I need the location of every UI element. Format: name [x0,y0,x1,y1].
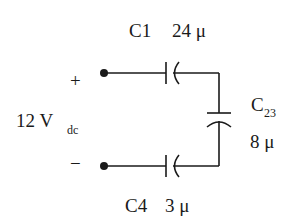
top-branch [100,62,219,84]
source-voltage-label: 12 V [16,110,53,131]
bottom-branch [100,155,219,177]
c4-name-label: C4 [125,195,148,216]
c23-value-label: 8 μ [250,131,274,152]
right-branch [207,73,231,166]
c1-name-label: C1 [129,20,151,41]
plus-sign-label: + [70,70,81,91]
circuit-diagram: C1 24 μ + 12 V dc − C 23 8 μ C4 3 μ [0,0,300,223]
c4-value-label: 3 μ [165,195,189,216]
source-voltage-subscript: dc [67,123,78,137]
c23-name-label: C [251,94,264,115]
c1-value-label: 24 μ [172,20,206,41]
minus-sign-label: − [70,153,81,174]
c23-name-subscript: 23 [264,106,276,120]
